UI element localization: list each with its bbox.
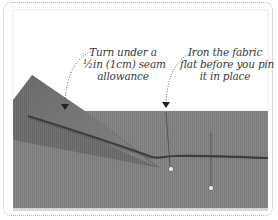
annotation-line: Iron the fabric <box>180 46 270 58</box>
annotation-turn-under: Turn under a ½in (1cm) seam allowance <box>83 46 163 82</box>
pin-head-1 <box>168 166 173 171</box>
annotation-line: it in place <box>180 70 270 82</box>
annotation-line: Turn under a <box>83 46 163 58</box>
annotation-iron-flat: Iron the fabric flat before you pin it i… <box>180 46 270 82</box>
annotation-line: flat before you pin <box>180 58 270 70</box>
fabric-photo <box>0 0 278 220</box>
annotation-line: allowance <box>83 70 163 82</box>
pin-head-2 <box>208 185 213 190</box>
annotation-line: ½in (1cm) seam <box>83 58 163 70</box>
